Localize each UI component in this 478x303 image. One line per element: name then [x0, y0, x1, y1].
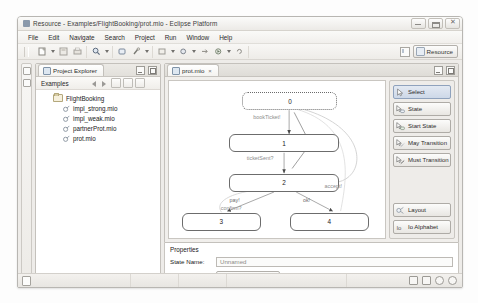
build-icon[interactable]: [130, 46, 142, 58]
menu-run[interactable]: Run: [160, 34, 182, 41]
back-dropdown-icon[interactable]: [171, 50, 175, 53]
tree-item-label: prot.mio: [73, 135, 96, 142]
up-one-level-icon[interactable]: [111, 78, 121, 88]
main-toolbar: Resource: [18, 44, 462, 60]
maximize-view-button[interactable]: [148, 66, 157, 75]
start-state-tool-icon: [396, 122, 405, 131]
menu-search[interactable]: Search: [100, 34, 130, 41]
state-node-3[interactable]: 3: [182, 213, 261, 231]
save-icon[interactable]: [57, 46, 69, 58]
transition-label-booktticket[interactable]: bookTicket!: [253, 114, 280, 120]
minimize-button[interactable]: [411, 18, 426, 29]
tree-item-impl-weak[interactable]: impl_weak.mio: [44, 113, 160, 123]
state-node-1[interactable]: 1: [229, 134, 338, 152]
menu-help[interactable]: Help: [214, 34, 237, 41]
status-cell-1: [31, 274, 131, 287]
next-annotation-icon[interactable]: [198, 46, 210, 58]
mio-file-icon: [63, 115, 70, 122]
debug-dropdown-icon[interactable]: [192, 50, 196, 53]
tree-item-prot[interactable]: prot.mio: [44, 133, 160, 143]
transition-label-pay[interactable]: pay!: [229, 197, 239, 203]
fast-view-icon[interactable]: [23, 79, 31, 87]
palette-tool-label: Must Transition: [408, 157, 449, 163]
search-icon[interactable]: [90, 46, 102, 58]
status-icon-3[interactable]: [435, 276, 444, 285]
menu-file[interactable]: File: [23, 34, 43, 41]
transition-label-confirm[interactable]: confirm?: [221, 205, 242, 211]
maximize-editor-button[interactable]: [446, 66, 455, 75]
open-resource-icon[interactable]: [116, 46, 128, 58]
property-row-state-name: State Name: Unnamed: [170, 256, 453, 267]
select-arrow-icon: [396, 88, 405, 97]
tab-prot-mio[interactable]: prot.mio ×: [167, 64, 219, 76]
minimize-editor-button[interactable]: [434, 66, 443, 75]
palette-tool-start-state[interactable]: Start State: [393, 119, 451, 133]
forward-navigation-icon[interactable]: [101, 79, 109, 87]
print-icon[interactable]: [71, 46, 83, 58]
toolbar-grip[interactable]: [24, 47, 29, 57]
state-name-input[interactable]: Unnamed: [216, 257, 453, 267]
palette-action-layout[interactable]: Layout: [393, 203, 451, 217]
new-wizard-icon[interactable]: [36, 46, 48, 58]
build-dropdown-icon[interactable]: [145, 50, 149, 53]
tree-item-impl-strong[interactable]: impl_strong.mio: [44, 103, 160, 113]
eclipse-window: Resource - Examples/FlightBooking/prot.m…: [17, 16, 463, 288]
mio-file-icon: [63, 105, 70, 112]
palette-tool-must-transition[interactable]: Must Transition: [393, 153, 451, 167]
tree-item-label: partnerProt.mio: [73, 125, 116, 132]
perspective-label: Resource: [427, 48, 453, 55]
explorer-root-label: Examples: [39, 80, 69, 87]
state-node-2[interactable]: 2: [229, 174, 338, 192]
minimize-view-button[interactable]: [136, 66, 145, 75]
project-explorer-icon: [43, 67, 51, 75]
menu-navigate[interactable]: Navigate: [64, 34, 99, 41]
status-cell-4: [227, 274, 347, 287]
close-tab-icon[interactable]: ×: [208, 68, 212, 74]
status-icon-2[interactable]: [422, 276, 431, 285]
state-label: 1: [282, 140, 286, 147]
state-tool-icon: [396, 105, 405, 114]
status-icon-4[interactable]: [448, 276, 457, 285]
perspective-bar: Resource: [400, 45, 458, 58]
new-wizard-dropdown-icon[interactable]: [51, 50, 55, 53]
diagram-canvas[interactable]: 0 1 2 3: [168, 80, 386, 239]
tree-item-partnerprot[interactable]: partnerProt.mio: [44, 123, 160, 133]
resource-perspective-icon: [416, 47, 425, 56]
editor-tab-bar: prot.mio ×: [165, 64, 458, 77]
status-icon-1[interactable]: [409, 276, 418, 285]
tree-item-label: impl_strong.mio: [73, 105, 117, 112]
forward-icon[interactable]: [233, 46, 245, 58]
title-bar: Resource - Examples/FlightBooking/prot.m…: [18, 17, 462, 31]
tab-project-explorer[interactable]: Project Explorer: [38, 64, 104, 76]
back-icon[interactable]: [156, 46, 168, 58]
run-icon[interactable]: [212, 46, 224, 58]
menu-window[interactable]: Window: [181, 34, 214, 41]
debug-icon[interactable]: [177, 46, 189, 58]
maximize-button[interactable]: [428, 18, 443, 29]
menu-edit[interactable]: Edit: [43, 34, 64, 41]
state-node-0[interactable]: 0: [242, 92, 337, 110]
restore-view-icon[interactable]: [23, 67, 31, 75]
palette-tool-select[interactable]: Select: [393, 85, 451, 99]
perspective-resource-button[interactable]: Resource: [413, 45, 458, 58]
state-node-4[interactable]: 4: [290, 213, 369, 231]
palette-action-io-alphabet[interactable]: Io Io Alphabet: [393, 220, 451, 234]
open-perspective-icon[interactable]: [400, 47, 410, 57]
search-dropdown-icon[interactable]: [105, 50, 109, 53]
palette-tool-state[interactable]: State: [393, 102, 451, 116]
run-dropdown-icon[interactable]: [227, 50, 231, 53]
menu-project[interactable]: Project: [130, 34, 160, 41]
transition-label-ticketsent[interactable]: ticketSent?: [247, 155, 274, 161]
tree-item-flightbooking[interactable]: FlightBooking: [44, 93, 160, 103]
close-button[interactable]: ✕: [445, 18, 460, 29]
collapse-all-icon[interactable]: [123, 78, 133, 88]
link-with-editor-icon[interactable]: [135, 78, 145, 88]
state-label: 0: [288, 98, 292, 105]
transition-label-ok[interactable]: ok!: [303, 197, 310, 203]
view-menu-icon[interactable]: [147, 78, 157, 88]
palette-tool-may-transition[interactable]: May Transition: [393, 136, 451, 150]
layout-icon: [396, 206, 405, 215]
transition-label-accept[interactable]: accept!: [325, 183, 342, 189]
status-bar: [18, 273, 462, 287]
back-navigation-icon[interactable]: [91, 79, 99, 87]
